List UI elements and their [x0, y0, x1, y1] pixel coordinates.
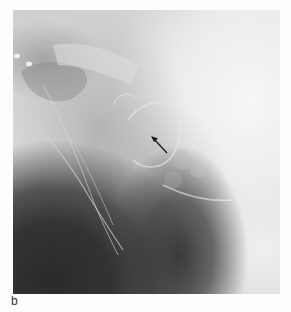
- figure-panel: b: [0, 0, 291, 312]
- radiograph-image: [13, 10, 280, 294]
- panel-label: b: [11, 294, 18, 308]
- arrow-icon: [13, 10, 280, 294]
